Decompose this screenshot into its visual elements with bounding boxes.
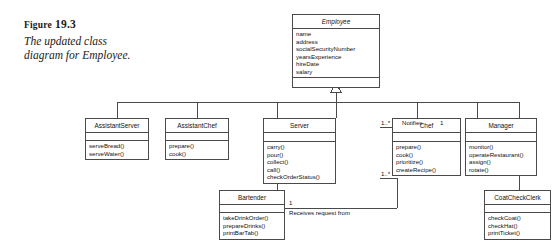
operation: prepare() [169, 142, 225, 150]
attribute: hireDate [296, 60, 376, 68]
multiplicity-bartender-to-server: 1 [289, 199, 292, 206]
operation: monitor() [469, 143, 533, 151]
class-name-bartender: Bartender [220, 191, 284, 205]
operation: pour() [267, 151, 332, 159]
class-operations-coat-check-clerk: checkCoat() checkHat() printTicket() [485, 213, 550, 239]
figure-label-number: 19.3 [55, 18, 76, 30]
uml-class-assistant-chef[interactable]: AssistantChef prepare() cook() [165, 118, 229, 160]
figure-label: Figure 19.3 [24, 18, 144, 30]
attribute: salary [296, 68, 376, 76]
multiplicity-chef-to-server: 1 [440, 119, 443, 126]
class-attributes-coat-check-clerk [485, 205, 550, 213]
class-attributes-manager [466, 133, 536, 142]
class-operations-chef: prepare() cook() prioritize() createReci… [393, 142, 460, 175]
attribute: address [296, 38, 376, 46]
class-operations-assistant-server: serveBread() serveWater() [86, 141, 148, 159]
operation: prepare() [396, 143, 457, 151]
class-operations-assistant-chef: prepare() cook() [166, 141, 228, 159]
uml-class-chef[interactable]: Chef prepare() cook() prioritize() creat… [392, 118, 461, 176]
class-attributes-server [264, 133, 335, 142]
class-operations-employee [293, 78, 379, 87]
operation: assign() [469, 158, 533, 166]
uml-class-manager[interactable]: Manager monitor() operateRestaurant() as… [465, 118, 537, 176]
operation: checkCoat() [488, 214, 547, 222]
operation: serveWater() [89, 150, 145, 158]
attribute: yearsExperience [296, 53, 376, 61]
attribute: name [296, 30, 376, 38]
figure-caption-block: Figure 19.3 The updated class diagram fo… [24, 18, 144, 62]
operation: collect() [267, 158, 332, 166]
operation: printTicket() [488, 229, 547, 237]
multiplicity-server-to-chef: 1..* [381, 119, 390, 126]
multiplicity-server-to-bartender: 1..* [381, 170, 390, 177]
association-label-notifies: Notifies [402, 119, 422, 126]
operation: checkOrderStatus() [267, 173, 332, 181]
operation: operateRestaurant() [469, 151, 533, 159]
class-name-employee: Employee [293, 15, 379, 29]
figure-label-word: Figure [24, 20, 52, 30]
operation: carry() [267, 143, 332, 151]
operation: rotate() [469, 166, 533, 174]
class-operations-manager: monitor() operateRestaurant() assign() r… [466, 142, 536, 175]
operation: prioritize() [396, 158, 457, 166]
operation: createRecipe() [396, 166, 457, 174]
operation: cook() [169, 150, 225, 158]
operation: call() [267, 166, 332, 174]
uml-class-employee[interactable]: Employee name address socialSecurityNumb… [292, 14, 380, 88]
uml-class-assistant-server[interactable]: AssistantServer serveBread() serveWater(… [85, 118, 149, 160]
class-attributes-employee: name address socialSecurityNumber yearsE… [293, 29, 379, 78]
operation: serveBread() [89, 142, 145, 150]
attribute: socialSecurityNumber [296, 45, 376, 53]
class-name-assistant-chef: AssistantChef [166, 119, 228, 133]
operation: cook() [396, 151, 457, 159]
uml-class-bartender[interactable]: Bartender takeDrinkOrder() prepareDrinks… [219, 190, 285, 240]
uml-class-coat-check-clerk[interactable]: CoatCheckClerk checkCoat() checkHat() pr… [484, 190, 551, 240]
class-attributes-bartender [220, 205, 284, 213]
operation: takeDrinkOrder() [223, 214, 281, 222]
class-attributes-assistant-server [86, 133, 148, 141]
class-name-assistant-server: AssistantServer [86, 119, 148, 133]
figure-caption-text: The updated class diagram for Employee. [24, 34, 144, 62]
operation: checkHat() [488, 222, 547, 230]
uml-class-server[interactable]: Server carry() pour() collect() call() c… [263, 118, 336, 184]
class-operations-bartender: takeDrinkOrder() prepareDrinks() printBa… [220, 213, 284, 239]
class-attributes-chef [393, 133, 460, 142]
operation: printBarTab() [223, 229, 281, 237]
class-name-manager: Manager [466, 119, 536, 133]
class-name-server: Server [264, 119, 335, 133]
class-name-coat-check-clerk: CoatCheckClerk [485, 191, 550, 205]
class-attributes-assistant-chef [166, 133, 228, 141]
figure-panel: Figure 19.3 The updated class diagram fo… [0, 0, 559, 242]
class-operations-server: carry() pour() collect() call() checkOrd… [264, 142, 335, 183]
association-label-receives-request-from: Receives request from [289, 209, 350, 216]
operation: prepareDrinks() [223, 222, 281, 230]
